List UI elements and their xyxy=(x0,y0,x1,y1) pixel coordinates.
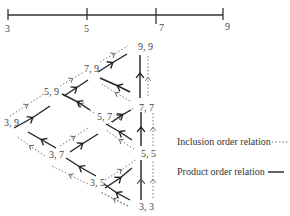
node-label-5-7: 5, 7 xyxy=(97,112,112,122)
axis-tick-label-5: 5 xyxy=(84,24,89,34)
node-label-7-9: 7, 9 xyxy=(84,64,99,74)
legend-inclusion-label: Inclusion order relation xyxy=(177,137,271,147)
number-line-axis xyxy=(8,8,223,24)
node-label-3-9: 3, 9 xyxy=(4,118,19,128)
axis-tick-label-9: 9 xyxy=(225,22,230,32)
node-label-7-7: 7, 7 xyxy=(139,103,154,113)
node-label-3-3: 3, 3 xyxy=(139,202,154,212)
node-label-5-5: 5, 5 xyxy=(141,149,156,159)
axis-tick-label-7: 7 xyxy=(159,23,164,33)
inclusion-edges xyxy=(10,46,153,206)
node-label-9-9: 9, 9 xyxy=(138,42,153,52)
node-label-3-5: 3, 5 xyxy=(90,178,105,188)
legend-product-label: Product order relation xyxy=(177,167,265,177)
node-label-3-7: 3, 7 xyxy=(49,150,64,160)
product-edges xyxy=(14,54,141,200)
node-label-5-9: 5, 9 xyxy=(44,87,59,97)
axis-tick-label-3: 3 xyxy=(5,24,10,34)
